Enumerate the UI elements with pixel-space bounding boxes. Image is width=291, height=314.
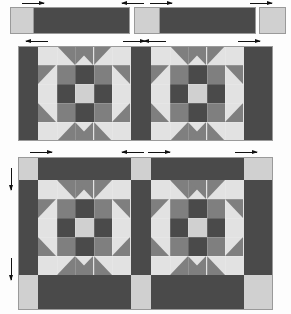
sash-bottom-2 (151, 275, 244, 310)
corner-square-bl (57, 237, 76, 256)
corner-square-tl (57, 65, 76, 84)
cornerstone-right (259, 7, 286, 34)
seam-line-vertical (57, 46, 58, 141)
cross-bar-bottom (188, 237, 207, 256)
point-triangle-right-upper (225, 65, 243, 84)
center-square (75, 218, 94, 237)
point-triangle-bottom-right (94, 122, 112, 141)
seam-line-horizontal (151, 65, 244, 66)
seam-line-horizontal (38, 103, 131, 104)
point-triangle-left-lower (38, 237, 56, 256)
corner-square-tr (94, 199, 113, 218)
diagram-canvas (0, 0, 291, 314)
seam-line-vertical (112, 180, 113, 275)
point-triangle-top-left (57, 180, 75, 199)
cross-bar-bottom (75, 237, 94, 256)
block-bg-r2c4 (225, 218, 244, 237)
block-4 (151, 180, 244, 275)
seam-line-horizontal (151, 84, 244, 85)
seam-line-horizontal (38, 199, 131, 200)
cross-bar-top (188, 199, 207, 218)
seam-arrow-6 (123, 39, 145, 44)
seam-line-vertical (94, 180, 95, 275)
cross-bar-bottom (75, 103, 94, 122)
seam-arrow-10 (122, 150, 144, 155)
block-2 (151, 46, 244, 141)
point-triangle-left-upper (38, 199, 56, 218)
seam-arrow-13 (9, 168, 14, 190)
seam-line-horizontal (38, 65, 131, 66)
corner-square-tr (94, 65, 113, 84)
seam-line-vertical (75, 46, 76, 141)
corner-square-br (94, 103, 113, 122)
corner-bottom-mid (131, 275, 151, 310)
sash-right (244, 180, 273, 275)
seam-line-vertical (75, 180, 76, 275)
seam-line-horizontal (151, 256, 244, 257)
cross-bar-top (188, 65, 207, 84)
seam-arrow-8 (238, 39, 260, 44)
point-triangle-bottom-center-right (188, 122, 206, 141)
seam-line-vertical (225, 46, 226, 141)
block-bg-r2c0 (38, 218, 57, 237)
point-triangle-top-right (207, 180, 225, 199)
corner-square-br (94, 237, 113, 256)
seam-arrow-14 (9, 258, 14, 280)
point-triangle-bottom-center-right (75, 122, 93, 141)
seam-line-vertical (207, 46, 208, 141)
corner-square-bl (170, 103, 189, 122)
cross-bar-bottom (188, 103, 207, 122)
corner-top-mid (131, 157, 151, 180)
corner-square-br (207, 103, 226, 122)
seam-line-horizontal (38, 256, 131, 257)
sash-top-1 (38, 157, 131, 180)
corner-square-tl (170, 65, 189, 84)
sashing-strip-2 (159, 7, 256, 34)
cross-bar-left (170, 218, 189, 237)
corner-square-tr (207, 65, 226, 84)
cross-bar-right (207, 218, 226, 237)
point-triangle-bottom-left (57, 122, 75, 141)
seam-line-vertical (94, 46, 95, 141)
seam-line-horizontal (151, 103, 244, 104)
center-square (188, 84, 207, 103)
sash-bottom-1 (38, 275, 131, 310)
point-triangle-top-left (57, 46, 75, 65)
point-triangle-left-upper (38, 65, 56, 84)
seam-line-vertical (207, 180, 208, 275)
corner-square-br (207, 237, 226, 256)
point-triangle-top-right (94, 46, 112, 65)
point-triangle-bottom-left (170, 122, 188, 141)
corner-bottom-left (18, 275, 38, 310)
seam-line-vertical (188, 46, 189, 141)
point-triangle-left-upper (151, 199, 169, 218)
cross-bar-right (94, 84, 113, 103)
center-square (75, 84, 94, 103)
seam-line-vertical (57, 180, 58, 275)
cross-bar-top (75, 199, 94, 218)
seam-line-horizontal (151, 122, 244, 123)
seam-line-vertical (170, 46, 171, 141)
seam-line-horizontal (151, 199, 244, 200)
corner-top-left (18, 157, 38, 180)
cross-bar-left (170, 84, 189, 103)
seam-line-horizontal (38, 237, 131, 238)
point-triangle-top-center-right (188, 46, 206, 65)
seam-line-vertical (188, 180, 189, 275)
seam-arrow-3 (150, 1, 172, 6)
seam-arrow-9 (30, 150, 52, 155)
corner-bottom-right (244, 275, 273, 310)
seam-arrow-2 (122, 1, 144, 6)
point-triangle-top-left (170, 180, 188, 199)
point-triangle-bottom-right (207, 122, 225, 141)
seam-arrow-11 (148, 150, 170, 155)
point-triangle-right-lower (225, 237, 243, 256)
block-bg-r2c0 (38, 84, 57, 103)
block-bg-r2c4 (112, 218, 131, 237)
sashing-left (18, 46, 38, 141)
sashing-center (131, 46, 151, 141)
corner-square-tl (57, 199, 76, 218)
sash-center (131, 180, 151, 275)
point-triangle-bottom-right (94, 256, 112, 275)
point-triangle-right-upper (112, 65, 130, 84)
